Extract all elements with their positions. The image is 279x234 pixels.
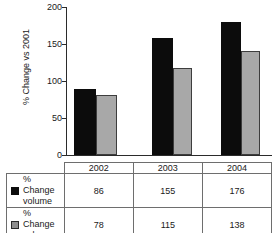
legend-value: % Change value xyxy=(7,208,65,234)
x-axis-line xyxy=(66,155,272,156)
bar-volume-2004 xyxy=(221,22,241,155)
y-axis-title: % Change vs 2001 xyxy=(21,12,31,122)
bar-value-2002 xyxy=(96,95,117,155)
cell-value-2003: 115 xyxy=(133,208,202,234)
table-header-2004: 2004 xyxy=(202,163,271,174)
y-axis-tick-labels: 200 150 100 50 0 xyxy=(34,0,62,158)
cell-volume-2004: 176 xyxy=(202,174,271,208)
y-tick-label-200: 200 xyxy=(36,3,62,12)
legend-swatch-volume-icon xyxy=(11,187,19,195)
legend-label-volume-line2: volume xyxy=(23,196,52,206)
legend-label-value-line2: value xyxy=(23,230,45,233)
cell-volume-2002: 86 xyxy=(64,174,133,208)
legend-swatch-value-icon xyxy=(11,221,19,229)
bar-value-2003 xyxy=(173,68,192,155)
cell-value-2004: 138 xyxy=(202,208,271,234)
bar-volume-2002 xyxy=(74,89,96,155)
cell-value-2002: 78 xyxy=(64,208,133,234)
table-row-value: % Change value 78 115 138 xyxy=(7,208,272,234)
table-header-row: 2002 2003 2004 xyxy=(7,163,272,174)
legend-label-value-line1: % Change xyxy=(23,208,55,229)
table-row-volume: % Change volume 86 155 176 xyxy=(7,174,272,208)
legend-label-value: % Change value xyxy=(23,208,64,233)
header-legend-spacer xyxy=(7,163,65,174)
y-tick-label-100: 100 xyxy=(36,77,62,86)
legend-volume: % Change volume xyxy=(7,174,65,208)
y-tick-label-0: 0 xyxy=(36,151,62,160)
y-axis-line xyxy=(66,7,67,156)
table-header-2003: 2003 xyxy=(133,163,202,174)
y-tick-label-150: 150 xyxy=(36,40,62,49)
table-header-2002: 2002 xyxy=(64,163,133,174)
cell-volume-2003: 155 xyxy=(133,174,202,208)
legend-label-volume-line1: % Change xyxy=(23,174,55,195)
chart-screenshot: % Change vs 2001 200 150 100 50 0 2002 2… xyxy=(0,0,279,233)
plot-area: % Change vs 2001 200 150 100 50 0 xyxy=(0,0,279,158)
legend-label-volume: % Change volume xyxy=(23,174,64,207)
y-tick-label-50: 50 xyxy=(36,114,62,123)
data-table: 2002 2003 2004 % Change volume 86 155 17… xyxy=(6,162,272,233)
bar-volume-2003 xyxy=(152,38,173,155)
bar-value-2004 xyxy=(241,51,260,155)
